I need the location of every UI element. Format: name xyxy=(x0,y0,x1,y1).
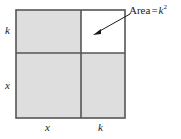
edge-label-left-top: k xyxy=(5,25,10,36)
area-callout-prefix: Area xyxy=(129,4,150,16)
edge-label-left-bottom: x xyxy=(5,80,10,91)
edge-label-bottom-left: x xyxy=(45,122,50,133)
region-bottom-left xyxy=(16,53,81,118)
region-top-left xyxy=(16,10,81,53)
figure-canvas xyxy=(0,0,181,139)
geometry-figure: k x x k Area=k2 xyxy=(0,0,181,139)
edge-label-bottom-right: k xyxy=(98,122,103,133)
region-top-right xyxy=(81,10,125,53)
area-callout-label: Area=k2 xyxy=(129,5,167,16)
area-callout-exponent: 2 xyxy=(163,3,167,11)
region-bottom-right xyxy=(81,53,125,118)
area-callout-equals: = xyxy=(150,4,158,16)
